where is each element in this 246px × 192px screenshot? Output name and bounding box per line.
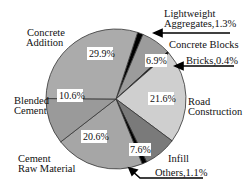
label-blended-2: Cement xyxy=(14,105,47,116)
pct-label-concrete-blocks: 6.9% xyxy=(145,54,167,67)
label-lightweight-2: Aggregates,1.3% xyxy=(164,18,237,29)
label-bricks: Bricks,0.4% xyxy=(186,55,238,66)
label-others: Others,1.1% xyxy=(155,167,208,178)
pct-label-concrete-addition: 29.9% xyxy=(87,47,115,60)
svg-text:20.6%: 20.6% xyxy=(83,131,109,142)
pct-label-blended: 10.6% xyxy=(57,89,85,102)
label-concrete-addition-2: Addition xyxy=(26,37,64,48)
callout-arrow-lightweight xyxy=(154,30,230,37)
pie-chart: 29.9% 6.9% 21.6% 10.6% 20.6% 7.6% Concre… xyxy=(0,0,246,192)
svg-text:29.9%: 29.9% xyxy=(89,48,115,59)
label-concrete-blocks: Concrete Blocks xyxy=(169,39,239,50)
pct-label-raw: 20.6% xyxy=(81,130,109,143)
pct-label-infill: 7.6% xyxy=(129,143,151,156)
svg-text:7.6%: 7.6% xyxy=(130,144,151,155)
label-raw-2: Raw Material xyxy=(18,163,76,174)
svg-text:10.6%: 10.6% xyxy=(59,90,85,101)
svg-text:21.6%: 21.6% xyxy=(150,93,176,104)
label-road-2: Construction xyxy=(188,106,243,117)
label-infill: Infill xyxy=(168,153,189,164)
pct-label-road: 21.6% xyxy=(148,92,176,105)
svg-text:6.9%: 6.9% xyxy=(146,55,167,66)
